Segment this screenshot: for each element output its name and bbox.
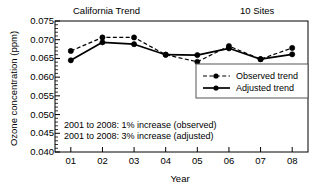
series-adjusted-trend bbox=[68, 40, 295, 63]
y-tick-label: 0.065 bbox=[0, 52, 54, 63]
y-tick-label: 0.075 bbox=[0, 15, 54, 26]
annotation-adjusted: 2001 to 2008: 3% increase (adjusted) bbox=[64, 131, 214, 141]
x-tick-label: 03 bbox=[120, 155, 148, 166]
y-tick-label: 0.070 bbox=[0, 34, 54, 45]
y-tick-label: 0.040 bbox=[0, 146, 54, 157]
annotation-observed: 2001 to 2008: 1% increase (observed) bbox=[64, 120, 217, 130]
legend-label-observed: Observed trend bbox=[236, 71, 298, 81]
legend-marker-observed bbox=[213, 73, 218, 78]
y-tick-label: 0.050 bbox=[0, 109, 54, 120]
data-point bbox=[100, 40, 105, 45]
chart-title: California Trend bbox=[73, 5, 140, 16]
x-tick-label: 08 bbox=[278, 155, 306, 166]
data-point bbox=[290, 52, 295, 57]
data-point bbox=[68, 58, 73, 63]
data-point bbox=[100, 35, 105, 40]
data-point bbox=[131, 35, 136, 40]
legend-marker-adjusted bbox=[213, 85, 218, 90]
data-point bbox=[258, 57, 263, 62]
x-tick-label: 05 bbox=[183, 155, 211, 166]
ozone-trend-figure: Ozone concentration (ppm) Year Californi… bbox=[0, 0, 326, 191]
data-point bbox=[290, 45, 295, 50]
site-count-label: 10 Sites bbox=[240, 5, 274, 16]
data-point bbox=[163, 52, 168, 57]
y-axis-major-ticks bbox=[55, 21, 60, 152]
x-tick-label: 04 bbox=[152, 155, 180, 166]
y-tick-label: 0.045 bbox=[0, 127, 54, 138]
x-tick-label: 02 bbox=[88, 155, 116, 166]
data-point bbox=[131, 42, 136, 47]
data-point bbox=[68, 48, 73, 53]
y-tick-label: 0.060 bbox=[0, 71, 54, 82]
data-point bbox=[195, 52, 200, 57]
y-tick-label: 0.055 bbox=[0, 90, 54, 101]
legend-label-adjusted: Adjusted trend bbox=[236, 83, 294, 93]
x-tick-label: 07 bbox=[247, 155, 275, 166]
x-tick-label: 06 bbox=[215, 155, 243, 166]
x-tick-label: 01 bbox=[57, 155, 85, 166]
x-axis-label: Year bbox=[52, 173, 308, 184]
x-axis-ticks bbox=[71, 147, 292, 152]
data-point bbox=[226, 46, 231, 51]
